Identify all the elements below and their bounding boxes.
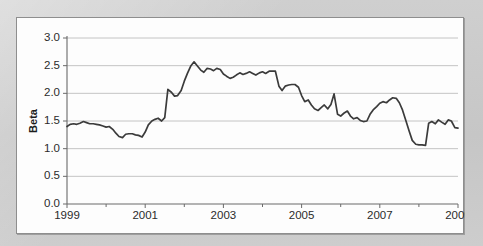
y-tick-label: 1.5	[44, 114, 60, 126]
x-tick-label: 2005	[289, 209, 315, 221]
y-axis-tick-labels: 0.00.51.01.52.02.53.0	[44, 31, 60, 209]
y-axis-ticks	[63, 38, 67, 204]
y-tick-label: 2.0	[44, 86, 60, 98]
x-axis-ticks	[67, 204, 458, 208]
x-axis-tick-labels: 199920012003200520072009	[54, 209, 465, 221]
beta-time-series-chart: 0.00.51.01.52.02.53.0 199920012003200520…	[17, 18, 465, 235]
y-tick-label: 0.5	[44, 169, 60, 181]
x-tick-label: 2007	[367, 209, 393, 221]
y-tick-label: 2.5	[44, 59, 60, 71]
y-axis-title: Beta	[27, 108, 39, 133]
y-tick-label: 1.0	[44, 142, 60, 154]
x-tick-label: 1999	[54, 209, 80, 221]
gridlines	[67, 38, 458, 176]
y-tick-label: 0.0	[44, 197, 60, 209]
x-tick-label: 2009	[445, 209, 465, 221]
beta-series-line	[67, 62, 458, 146]
chart-card: 0.00.51.01.52.02.53.0 199920012003200520…	[16, 17, 464, 234]
x-tick-label: 2001	[132, 209, 158, 221]
page-background: 0.00.51.01.52.02.53.0 199920012003200520…	[0, 0, 483, 246]
x-tick-label: 2003	[211, 209, 237, 221]
y-tick-label: 3.0	[44, 31, 60, 43]
